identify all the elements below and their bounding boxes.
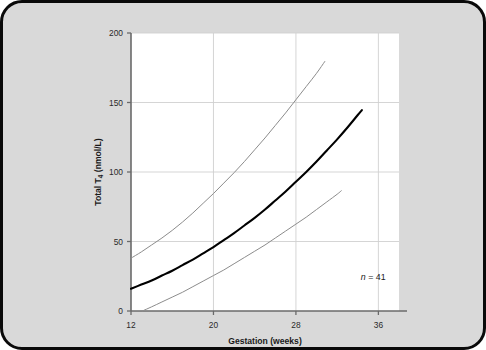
y-tick-label-50: 50 [114,237,124,247]
y-tick-label-200: 200 [109,28,123,38]
annotations-group: n = 41 [361,272,386,282]
y-tick-label-0: 0 [118,306,123,316]
x-tick-label-20: 20 [209,320,219,330]
x-tick-label-12: 12 [126,320,136,330]
y-tick-label-100: 100 [109,167,123,177]
x-tick-label-36: 36 [374,320,384,330]
x-axis-label: Gestation (weeks) [228,336,302,346]
annotation-value: = 41 [366,272,386,282]
annotation-sample-size: n = 41 [361,272,386,282]
figure-panel: 05010015020012202836 n = 41 Gestation (w… [0,0,486,350]
y-tick-label-150: 150 [109,98,123,108]
chart-canvas: 05010015020012202836 n = 41 Gestation (w… [3,3,486,350]
y-axis-label-prefix: Total T [93,177,103,205]
x-tick-label-28: 28 [291,320,301,330]
y-axis-label-suffix: (nmol/L) [93,138,103,174]
y-axis-label: Total T4 (nmol/L) [93,138,104,206]
